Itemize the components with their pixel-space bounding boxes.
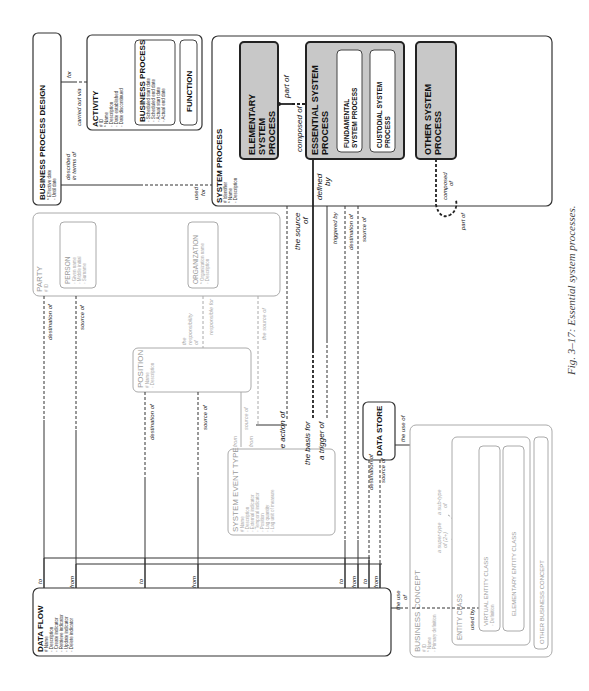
svg-text:# ID: # ID: [44, 283, 49, 292]
entity-other-business-concept: OTHER BUSINESS CONCEPT: [534, 437, 548, 649]
svg-text:to: to: [338, 578, 344, 584]
svg-text:OTHER BUSINESS CONCEPT: OTHER BUSINESS CONCEPT: [539, 560, 545, 644]
entity-business-concept: BUSINESS CONCEPT # ID * Name ◦ Primary d…: [410, 425, 552, 657]
svg-text:CUSTODIAL SYSTEM: CUSTODIAL SYSTEM: [376, 82, 383, 148]
svg-text:SYSTEM: SYSTEM: [257, 118, 267, 155]
entity-virtual-entity-class: VIRTUAL ENTITY CLASS ◦ Definition: [479, 446, 500, 631]
svg-text:BUSINESS PROCESS DESIGN: BUSINESS PROCESS DESIGN: [38, 85, 47, 200]
svg-text:◦ Description: ◦ Description: [205, 258, 210, 284]
svg-text:source of: source of: [380, 457, 386, 483]
svg-text:SYSTEM PROCESS: SYSTEM PROCESS: [351, 87, 358, 148]
svg-text:from: from: [191, 576, 197, 588]
svg-text:the basis for: the basis for: [303, 421, 312, 465]
svg-text:ELEMENTARY: ELEMENTARY: [247, 94, 257, 155]
svg-text:◦ Surname: ◦ Surname: [82, 262, 87, 284]
rel-dataflow-business-concept: the use of: [391, 590, 412, 610]
svg-text:destination of: destination of: [149, 403, 155, 440]
svg-text:POSITION: POSITION: [136, 350, 145, 388]
svg-text:of: of: [193, 340, 199, 345]
svg-text:◦ Primary definition: ◦ Primary definition: [432, 614, 437, 652]
svg-text:by: by: [323, 177, 332, 186]
svg-text:FUNDAMENTAL: FUNDAMENTAL: [343, 99, 350, 148]
svg-text:destination of: destination of: [348, 213, 354, 250]
svg-text:ENTITY CLASS: ENTITY CLASS: [456, 593, 463, 640]
svg-text:to: to: [362, 578, 368, 584]
svg-text:OTHER SYSTEM: OTHER SYSTEM: [423, 84, 433, 155]
svg-text:ELEMENTARY ENTITY CLASS: ELEMENTARY ENTITY CLASS: [511, 532, 517, 616]
rel-data-flow-bus: to from to from to from to from: [37, 558, 382, 588]
svg-text:used by: used by: [469, 608, 475, 630]
svg-text:◦ Description: ◦ Description: [233, 177, 238, 203]
svg-text:destination of: destination of: [47, 303, 53, 340]
svg-text:used: used: [193, 186, 199, 200]
svg-text:ORGANIZATION: ORGANIZATION: [192, 235, 199, 284]
svg-text:◦ Until date: ◦ Until date: [52, 178, 57, 200]
svg-text:the action of: the action of: [278, 411, 287, 455]
svg-text:◦ Description: ◦ Description: [150, 362, 155, 388]
svg-text:from: from: [69, 576, 75, 588]
svg-text:triggered by: triggered by: [332, 211, 338, 244]
svg-text:a sub-type: a sub-type: [436, 489, 442, 515]
svg-text:from: from: [248, 436, 254, 447]
svg-text:source of: source of: [361, 216, 367, 242]
entity-party: PARTY # ID PERSON ◦ Given name ◦ Middle …: [33, 213, 280, 296]
svg-text:SYSTEM EVENT TYPE: SYSTEM EVENT TYPE: [231, 447, 240, 532]
svg-text:part of: part of: [282, 75, 291, 99]
svg-text:of: of: [301, 217, 310, 224]
svg-text:for: for: [66, 70, 72, 78]
svg-text:composed of: composed of: [295, 105, 304, 152]
entity-system-process: SYSTEM PROCESS # Identifier * Name ◦ Des…: [212, 36, 552, 206]
svg-text:source of: source of: [202, 404, 208, 430]
entity-organization: ORGANIZATION * Organization name ◦ Descr…: [188, 222, 218, 288]
svg-text:◦ Actual end date: ◦ Actual end date: [161, 88, 166, 122]
entity-activity: ACTIVITY # ID * Name ◦ Description ◦ Dat…: [87, 35, 202, 130]
entity-fundamental-system-process: FUNDAMENTAL SYSTEM PROCESS: [337, 50, 362, 152]
svg-text:a trigger of: a trigger of: [317, 421, 326, 460]
svg-text:of: of: [442, 503, 448, 508]
entity-position: POSITION # Name ◦ Description: [133, 348, 251, 392]
entity-elementary-system-process: ELEMENTARY SYSTEM PROCESS: [240, 42, 278, 159]
svg-text:to: to: [37, 578, 43, 584]
svg-text:DATA STORE: DATA STORE: [375, 405, 384, 456]
entity-person: PERSON ◦ Given name ◦ Middle initial ◦ S…: [60, 222, 96, 288]
svg-text:BUSINESS CONCEPT: BUSINESS CONCEPT: [413, 570, 422, 652]
svg-text:FUNCTION: FUNCTION: [185, 70, 194, 112]
svg-text:to: to: [138, 578, 144, 584]
entity-elementary-entity-class: ELEMENTARY ENTITY CLASS: [503, 446, 524, 631]
svg-text:from: from: [232, 436, 238, 447]
svg-text:ESSENTIAL SYSTEM: ESSENTIAL SYSTEM: [310, 65, 320, 155]
svg-text:◦ Lag unit of measure: ◦ Lag unit of measure: [270, 489, 275, 532]
svg-text:the source of: the source of: [261, 308, 267, 340]
svg-text:for: for: [200, 188, 206, 196]
svg-text:source of: source of: [243, 407, 249, 430]
svg-text:the use: the use: [395, 590, 401, 610]
svg-text:of: of: [402, 594, 408, 600]
entity-essential-system-process: ESSENTIAL SYSTEM PROCESS FUNDAMENTAL SYS…: [306, 42, 404, 159]
svg-text:from: from: [351, 576, 357, 588]
svg-text:PARTY: PARTY: [35, 265, 44, 292]
entity-business-process-design: BUSINESS PROCESS DESIGN * Effective date…: [33, 33, 61, 205]
svg-text:from: from: [373, 576, 379, 588]
diagram-canvas: BUSINESS PROCESS DESIGN * Effective date…: [0, 0, 589, 691]
svg-text:◦ Delete indicator: ◦ Delete indicator: [69, 617, 74, 652]
entity-other-system-process: OTHER SYSTEM PROCESS: [416, 42, 456, 159]
svg-text:◦ Date discontinued: ◦ Date discontinued: [119, 88, 124, 127]
svg-text:part of: part of: [460, 212, 466, 231]
svg-text:PERSON: PERSON: [64, 256, 71, 284]
entity-data-flow: DATA FLOW # Name ◦ Description ◦ Create …: [33, 588, 391, 656]
rel-bpd-system-process: described in terms of used for: [61, 151, 212, 200]
svg-text:VIRTUAL ENTITY CLASS: VIRTUAL ENTITY CLASS: [483, 557, 489, 626]
svg-text:of (2+): of (2+): [442, 532, 448, 548]
svg-text:the use of: the use of: [400, 414, 406, 442]
svg-text:responsible for: responsible for: [208, 298, 214, 335]
svg-text:carried out via: carried out via: [76, 88, 82, 126]
svg-text:PROCESS: PROCESS: [384, 116, 391, 148]
entity-business-process: BUSINESS PROCESS ◦ Scheduled start date …: [135, 39, 175, 125]
rel-bpd-activity: for carried out via: [61, 70, 87, 126]
svg-text:PROCESS: PROCESS: [433, 111, 443, 155]
svg-text:source of: source of: [79, 304, 85, 330]
svg-text:responsibility: responsibility: [187, 312, 193, 345]
rel-party-dataflow: destination of source of: [44, 296, 85, 605]
svg-text:in terms of: in terms of: [71, 151, 77, 180]
entity-custodial-system-process: CUSTODIAL SYSTEM PROCESS: [370, 50, 395, 152]
